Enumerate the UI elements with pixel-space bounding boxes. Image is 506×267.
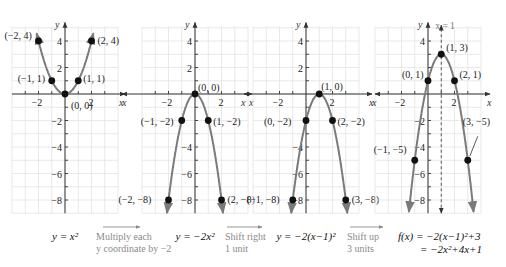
data-point xyxy=(88,38,95,45)
data-point xyxy=(35,38,42,45)
data-point xyxy=(218,197,225,204)
x-axis-label-left: x xyxy=(240,97,246,108)
tick-label: −6 xyxy=(414,169,425,180)
data-point xyxy=(178,117,185,124)
step-caption-line2: 1 unit xyxy=(225,243,248,254)
data-point xyxy=(303,117,310,124)
point-label: (−2, −8) xyxy=(119,194,152,206)
x-axis-label-left: x xyxy=(118,97,124,108)
panel-f-of-x: xxy−224−4−6−8−2x = 1(−1, −5)(0, 1)(1, 3)… xyxy=(371,19,492,255)
tick-label: −4 xyxy=(51,142,62,153)
step-caption-line1: Shift right xyxy=(225,231,266,242)
tick-label: 4 xyxy=(187,36,192,47)
equation-label-line2: = −2x²+4x+1 xyxy=(420,243,482,255)
tick-label: −2 xyxy=(273,97,284,108)
tick-label: 2 xyxy=(298,63,303,74)
equation-label: y = −2x² xyxy=(175,230,216,242)
tick-label: 4 xyxy=(420,36,425,47)
data-point xyxy=(425,77,432,84)
data-point xyxy=(342,197,349,204)
data-point xyxy=(48,77,55,84)
step-caption-line1: Shift up xyxy=(347,231,379,242)
y-axis-label: y xyxy=(184,19,190,30)
tick-label: −4 xyxy=(181,142,192,153)
point-label: (−1, 1) xyxy=(18,73,45,85)
tick-label: 2 xyxy=(330,97,335,108)
x-axis-label-left: x xyxy=(371,97,377,108)
equation-label: y = x² xyxy=(51,230,79,242)
y-axis-label: y xyxy=(295,19,301,30)
tick-label: −8 xyxy=(51,195,62,206)
panel-y-equals-x-squared: xy−224−4−6−82−2(−2, 4)(−1, 1)(0, 0)(1, 1… xyxy=(5,19,128,242)
data-point xyxy=(205,117,212,124)
point-label: (2, 1) xyxy=(460,69,482,81)
equation-label: y = −2(x−1)² xyxy=(275,230,336,243)
step-caption-line2: 3 units xyxy=(347,243,374,254)
data-point xyxy=(62,91,69,98)
point-label: (1, −2) xyxy=(213,116,240,128)
step-caption-line2: y coordinate by −2 xyxy=(96,243,171,254)
transformation-step-1: Multiply eachy coordinate by −2 xyxy=(96,227,171,254)
data-point xyxy=(165,197,172,204)
point-label: (2, −2) xyxy=(338,116,365,128)
point-label: (1, 1) xyxy=(83,73,105,85)
point-label: (0, 0) xyxy=(198,82,220,94)
data-point xyxy=(289,197,296,204)
tick-label: 4 xyxy=(57,36,62,47)
tick-label: 2 xyxy=(452,97,457,108)
tick-label: −2 xyxy=(162,97,173,108)
axis-of-symmetry-label: x = 1 xyxy=(435,21,455,31)
y-axis-label: y xyxy=(54,19,60,30)
tick-label: −6 xyxy=(51,169,62,180)
data-point xyxy=(329,117,336,124)
tick-label: −8 xyxy=(414,195,425,206)
data-point xyxy=(451,77,458,84)
transformation-step-2: Shift right1 unit xyxy=(225,227,266,254)
tick-label: 4 xyxy=(298,36,303,47)
point-label: (3, −5) xyxy=(463,116,490,128)
point-label: (0, −2) xyxy=(264,116,291,128)
transformation-step-3: Shift up3 units xyxy=(347,227,383,254)
point-label: (1, 0) xyxy=(321,81,343,93)
step-caption-line1: Multiply each xyxy=(96,231,152,242)
transformation-figure: xy−224−4−6−82−2(−2, 4)(−1, 1)(0, 0)(1, 1… xyxy=(0,0,506,267)
x-axis-label: x xyxy=(486,97,492,108)
data-point xyxy=(464,157,471,164)
y-axis-label: y xyxy=(417,19,423,30)
data-point xyxy=(75,77,82,84)
tick-label: −6 xyxy=(181,169,192,180)
point-label: (−2, 4) xyxy=(5,30,32,42)
tick-label: 2 xyxy=(219,97,224,108)
point-label: (2, 4) xyxy=(98,35,120,47)
point-label: (0, 1) xyxy=(402,69,424,81)
panel-y-equals-neg2x-squared: xxy−224−4−6−82(−2, −8)(−1, −2)(0, 0)(1, … xyxy=(118,19,255,242)
tick-label: −2 xyxy=(395,97,406,108)
tick-label: −2 xyxy=(51,116,62,127)
tick-label: −8 xyxy=(181,195,192,206)
point-label: (1, 3) xyxy=(446,42,468,54)
tick-label: 2 xyxy=(57,63,62,74)
panel-y-equals-neg2-x-minus-1-squared: xxy−224−4−6−82(−1, −8)(0, −2)(1, 0)(2, −… xyxy=(240,19,379,243)
equation-label-line1: f(x) = −2(x−1)²+3 xyxy=(398,230,481,243)
tick-label: −2 xyxy=(32,97,43,108)
point-label: (−1, −5) xyxy=(374,144,407,156)
data-point xyxy=(438,51,445,58)
point-label: (−1, −2) xyxy=(141,116,174,128)
point-label: (−1, −8) xyxy=(247,194,280,206)
tick-label: 2 xyxy=(187,63,192,74)
data-point xyxy=(411,157,418,164)
point-label: (0, 0) xyxy=(71,100,93,112)
